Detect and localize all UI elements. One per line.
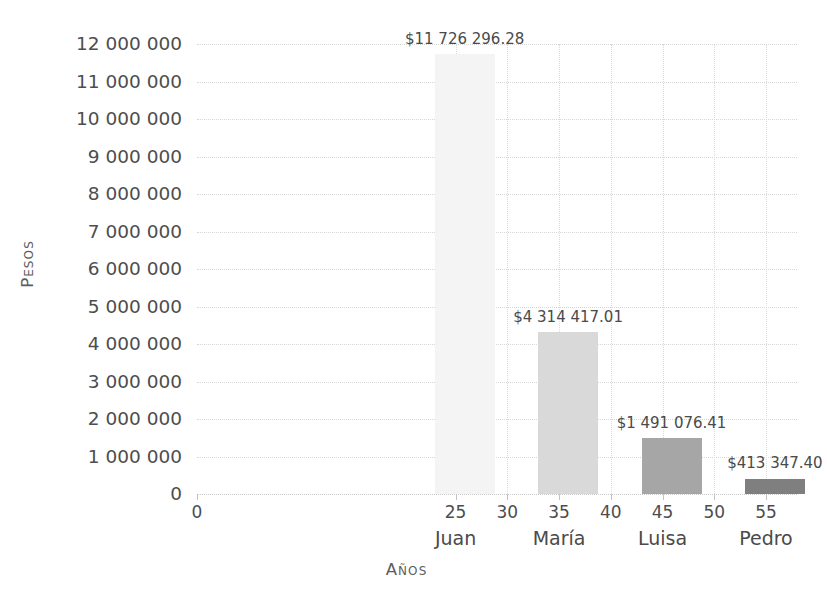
bar[interactable] (538, 332, 598, 494)
x-axis-tick-mark (507, 494, 508, 500)
gridline-vertical (766, 44, 767, 494)
y-axis-tick-label: 6 000 000 (42, 260, 182, 279)
y-axis-tick-label: 9 000 000 (42, 148, 182, 167)
bar-value-label: $4 314 417.01 (478, 310, 658, 325)
y-axis-tick-label: 11 000 000 (42, 73, 182, 92)
gridline-horizontal (197, 307, 797, 308)
bar[interactable] (745, 479, 805, 495)
y-axis-tick-labels: 01 000 0002 000 0003 000 0004 000 0005 0… (42, 0, 182, 609)
x-axis-tick-label: 0 (167, 503, 227, 521)
gridline-horizontal (197, 269, 797, 270)
gridline-horizontal (197, 82, 797, 83)
x-axis-title: Años (0, 560, 813, 579)
y-axis-tick-label: 7 000 000 (42, 223, 182, 242)
x-axis-category-label: Pedro (706, 527, 826, 549)
x-axis-tick-label: 55 (736, 503, 796, 521)
y-axis-title: Pesos (16, 214, 40, 314)
y-axis-tick-label: 3 000 000 (42, 373, 182, 392)
x-axis-tick-mark (766, 494, 767, 500)
gridline-horizontal (197, 119, 797, 120)
gridline-horizontal (197, 194, 797, 195)
y-axis-tick-label: 8 000 000 (42, 185, 182, 204)
bar-value-label: $413 347.40 (685, 456, 827, 471)
plot-area: $11 726 296.28$4 314 417.01$1 491 076.41… (197, 44, 797, 494)
x-axis-tick-mark (456, 494, 457, 500)
x-axis-tick-mark (663, 494, 664, 500)
bar-value-label: $1 491 076.41 (582, 416, 762, 431)
x-axis-tick-mark (197, 494, 198, 500)
x-axis-category-label: Juan (396, 527, 516, 549)
gridline-vertical (507, 44, 508, 494)
gridline-horizontal (197, 232, 797, 233)
bar[interactable] (435, 54, 495, 494)
x-axis-category-label: Luisa (603, 527, 723, 549)
gridline-horizontal (197, 382, 797, 383)
y-axis-tick-label: 12 000 000 (42, 35, 182, 54)
y-axis-tick-label: 4 000 000 (42, 335, 182, 354)
y-axis-tick-label: 10 000 000 (42, 110, 182, 129)
y-axis-tick-label: 0 (42, 485, 182, 504)
y-axis-tick-label: 1 000 000 (42, 448, 182, 467)
x-axis-tick-mark (559, 494, 560, 500)
y-axis-tick-label: 2 000 000 (42, 410, 182, 429)
bar-value-label: $11 726 296.28 (375, 32, 555, 47)
x-axis-tick-mark (611, 494, 612, 500)
y-axis-tick-label: 5 000 000 (42, 298, 182, 317)
x-axis-line (197, 494, 797, 495)
gridline-horizontal (197, 157, 797, 158)
gridline-horizontal (197, 344, 797, 345)
x-axis-category-label: María (499, 527, 619, 549)
x-axis-tick-mark (714, 494, 715, 500)
